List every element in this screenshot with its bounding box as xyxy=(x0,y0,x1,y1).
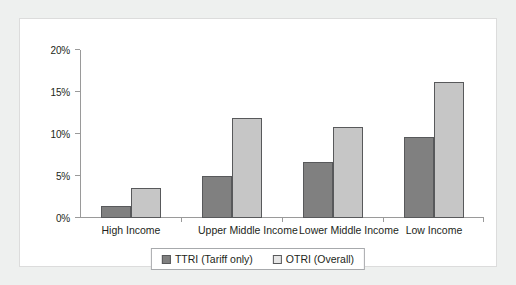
bar-ttri xyxy=(404,137,434,218)
y-axis-tick-label: 10% xyxy=(51,128,70,139)
legend-item-otri: OTRI (Overall) xyxy=(273,253,354,265)
chart-legend: TTRI (Tariff only) OTRI (Overall) xyxy=(151,248,365,270)
bar-group: Upper Middle Income xyxy=(198,50,266,218)
bar-otri xyxy=(232,118,262,218)
legend-swatch-icon xyxy=(273,255,282,264)
bar-group: Low Income xyxy=(400,50,468,218)
bar-ttri xyxy=(202,176,232,218)
y-axis-line xyxy=(80,50,81,218)
y-axis-tick: 5% xyxy=(75,175,80,176)
x-axis-tick xyxy=(282,218,283,222)
bar-ttri xyxy=(303,162,333,218)
x-axis-category-label: Low Income xyxy=(400,224,468,236)
y-axis-tick: 15% xyxy=(75,91,80,92)
x-axis-category-label: High Income xyxy=(97,224,165,236)
bar-otri xyxy=(131,188,161,218)
plot-area: 0% 5% 10% 15% 20% High Incom xyxy=(80,50,484,218)
y-axis-tick: 20% xyxy=(75,49,80,50)
chart-figure: 0% 5% 10% 15% 20% High Incom xyxy=(0,0,516,285)
legend-label: OTRI (Overall) xyxy=(286,253,354,265)
legend-swatch-icon xyxy=(162,255,171,264)
y-axis-tick: 0% xyxy=(75,217,80,218)
legend-item-ttri: TTRI (Tariff only) xyxy=(162,253,253,265)
bar-otri xyxy=(434,82,464,218)
y-axis-tick-label: 20% xyxy=(51,44,70,55)
bar-otri xyxy=(333,127,363,218)
x-axis-category-label: Upper Middle Income xyxy=(198,224,266,236)
bar-ttri xyxy=(101,206,131,218)
bar-group: Lower Middle Income xyxy=(299,50,367,218)
x-axis-category-label: Lower Middle Income xyxy=(299,224,367,236)
y-axis-tick-label: 15% xyxy=(51,86,70,97)
y-axis-tick-label: 5% xyxy=(56,170,70,181)
chart-panel: 0% 5% 10% 15% 20% High Incom xyxy=(19,18,497,267)
x-axis-tick xyxy=(181,218,182,222)
y-axis-tick-label: 0% xyxy=(56,212,70,223)
bar-group: High Income xyxy=(97,50,165,218)
x-axis-tick xyxy=(383,218,384,222)
y-axis-tick: 10% xyxy=(75,133,80,134)
legend-label: TTRI (Tariff only) xyxy=(175,253,253,265)
x-axis-tick xyxy=(483,218,484,222)
